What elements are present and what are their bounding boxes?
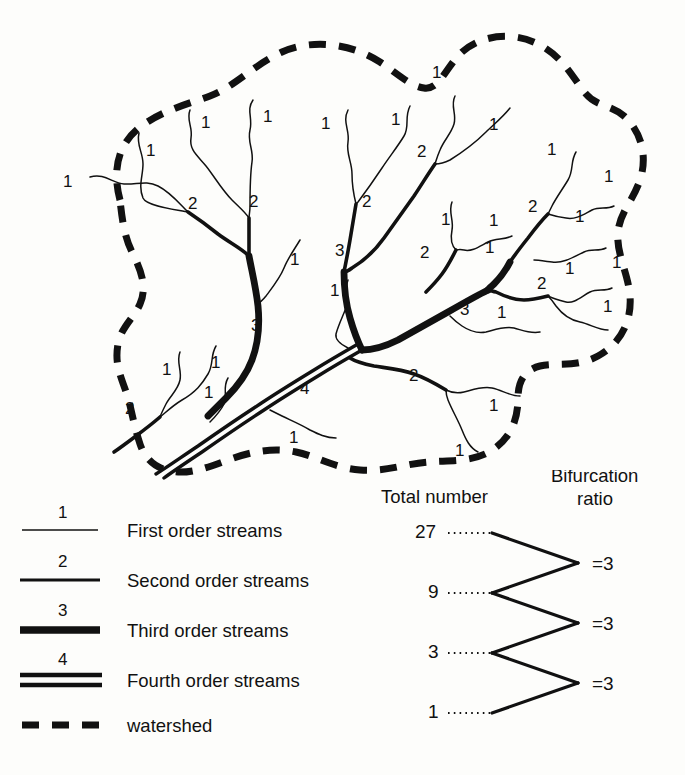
watershed-divide (117, 36, 644, 472)
order-label: 1 (485, 238, 494, 257)
order-label: 1 (604, 167, 613, 186)
legend-label: Second order streams (127, 570, 309, 591)
legend-order-number: 2 (58, 552, 67, 571)
ratio-connector (492, 683, 578, 713)
drainage-basin-map: 1 1 1 1 1 1 1 1 1 1 2 2 2 2 2 1 1 1 1 1 … (0, 0, 685, 500)
order-label: 1 (455, 441, 464, 460)
legend-label: watershed (126, 715, 212, 736)
stream-first-order (160, 346, 216, 417)
legend-row-third-order: 3 Third order streams (20, 601, 288, 641)
stream-third-order (362, 290, 488, 350)
order-label: 2 (528, 197, 537, 216)
stream-second-order (114, 417, 160, 452)
ratio-connector (492, 533, 578, 563)
order-label: 1 (603, 297, 612, 316)
order-label: 1 (201, 113, 210, 132)
stream-first-order (435, 108, 510, 164)
order-label: 2 (417, 142, 426, 161)
order-label: 1 (263, 107, 272, 126)
order-label: 2 (125, 399, 134, 418)
figure-root: 1 1 1 1 1 1 1 1 1 1 2 2 2 2 2 1 1 1 1 1 … (0, 0, 685, 775)
order-label: 2 (362, 192, 371, 211)
stream-first-order (548, 296, 608, 330)
legend-row-watershed: watershed (22, 715, 212, 736)
order-label: 1 (489, 396, 498, 415)
total-count-order3: 3 (428, 641, 439, 662)
order-label: 1 (289, 428, 298, 447)
order-label: 4 (300, 379, 309, 398)
stream-first-order (446, 387, 520, 396)
order-label: 1 (330, 281, 339, 300)
order-label: 1 (575, 207, 584, 226)
order-label: 1 (290, 250, 299, 269)
order-label: 1 (321, 114, 330, 133)
order-label: 2 (249, 192, 258, 211)
total-count-order4: 1 (428, 701, 439, 722)
ratio-connector (492, 653, 578, 683)
total-count-order2: 9 (428, 581, 439, 602)
stream-second-order (426, 250, 456, 292)
ratio-connector (492, 563, 578, 593)
legend-order-number: 1 (58, 503, 67, 522)
stream-fourth-order (156, 344, 358, 474)
order-label: 1 (211, 353, 220, 372)
stream-second-order (350, 358, 446, 390)
ratio-connector (492, 623, 578, 653)
stream-first-order (189, 110, 249, 218)
order-label: 1 (432, 63, 441, 82)
order-label: 2 (188, 194, 197, 213)
stream-second-order (188, 212, 249, 256)
order-label: 1 (391, 110, 400, 129)
bifurcation-ratio-header-line2: ratio (577, 488, 613, 509)
legend-and-ratio-panel: Total number Bifurcation ratio 1 First o… (0, 470, 685, 775)
order-label: 1 (565, 259, 574, 278)
stream-first-order (548, 152, 576, 214)
order-label: 1 (612, 253, 621, 272)
stream-first-order (90, 176, 188, 212)
total-number-column: 27 9 3 1 (415, 521, 492, 722)
total-count-order1: 27 (415, 521, 436, 542)
legend-label: Fourth order streams (127, 670, 300, 691)
order-label: 3 (251, 316, 260, 335)
order-label: 3 (335, 241, 344, 260)
stream-first-order (435, 96, 455, 164)
stream-second-order (510, 214, 548, 262)
legend-row-fourth-order: 4 Fourth order streams (20, 650, 300, 691)
order-label: 2 (409, 366, 418, 385)
order-label: 1 (441, 210, 450, 229)
legend-label: First order streams (127, 520, 282, 541)
stream-first-order (356, 106, 410, 204)
stream-first-order (451, 202, 456, 250)
order-label: 1 (547, 140, 556, 159)
stream-first-order (270, 410, 336, 438)
legend-order-number: 4 (58, 650, 67, 669)
ratio-connector (492, 593, 578, 623)
order-label: 1 (162, 360, 171, 379)
stream-third-order (208, 256, 259, 416)
bifurcation-ratio-value: =3 (592, 673, 614, 694)
bifurcation-ratio-header-line1: Bifurcation (551, 470, 638, 486)
order-label: 1 (489, 115, 498, 134)
legend-label: Third order streams (127, 620, 288, 641)
legend-row-first-order: 1 First order streams (22, 503, 282, 541)
order-label: 1 (489, 211, 498, 230)
order-label: 1 (204, 383, 213, 402)
total-number-header: Total number (381, 486, 488, 507)
bifurcation-ratio-diagram: =3 =3 =3 (492, 533, 614, 713)
legend-row-second-order: 2 Second order streams (20, 552, 309, 591)
order-label: 1 (146, 141, 155, 160)
stream-fourth-order (164, 350, 362, 478)
order-label: 1 (497, 303, 506, 322)
bifurcation-ratio-value: =3 (592, 553, 614, 574)
order-label: 1 (63, 172, 72, 191)
stream-second-order (344, 204, 356, 272)
order-label: 3 (460, 300, 469, 319)
map-order-labels: 1 1 1 1 1 1 1 1 1 1 2 2 2 2 2 1 1 1 1 1 … (63, 63, 621, 460)
order-label: 2 (420, 243, 429, 262)
stream-third-order (488, 262, 510, 290)
order-label: 2 (537, 274, 546, 293)
legend-order-number: 3 (58, 601, 67, 620)
stream-first-order (346, 110, 356, 204)
bifurcation-ratio-value: =3 (592, 613, 614, 634)
stream-first-order (456, 236, 512, 250)
